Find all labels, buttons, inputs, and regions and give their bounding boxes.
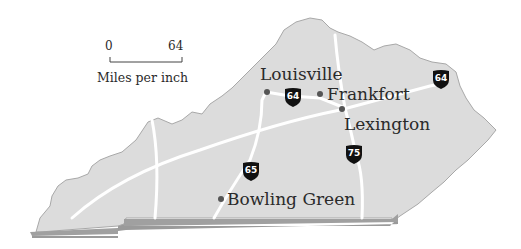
city-label-frankfort: Frankfort <box>327 86 410 103</box>
city-dot-frankfort <box>317 91 323 97</box>
shield-number: 64 <box>432 74 450 83</box>
kentucky-map: 0 64 Miles per inch Louisville Frankfort… <box>0 0 521 249</box>
city-label-lexington: Lexington <box>344 116 430 133</box>
interstate-shield-64-east: 64 <box>432 70 450 90</box>
city-dot-louisville <box>264 89 270 95</box>
scale-caption: Miles per inch <box>97 72 188 85</box>
city-label-bowling-green: Bowling Green <box>227 191 355 208</box>
city-dot-bowling-green <box>218 196 224 202</box>
scale-start-label: 0 <box>105 40 113 52</box>
map-graphic <box>0 0 521 249</box>
city-dot-lexington <box>339 106 345 112</box>
scale-end-label: 64 <box>168 40 183 52</box>
shield-number: 64 <box>284 92 302 101</box>
shield-number: 65 <box>242 166 260 175</box>
interstate-shield-64-center: 64 <box>284 88 302 108</box>
scale-bar <box>110 57 182 62</box>
interstate-shield-75: 75 <box>345 145 363 165</box>
shield-number: 75 <box>345 149 363 158</box>
city-label-louisville: Louisville <box>260 66 343 83</box>
interstate-shield-65: 65 <box>242 162 260 182</box>
